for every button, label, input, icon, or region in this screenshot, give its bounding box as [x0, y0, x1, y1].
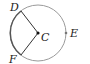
label-c: C [41, 31, 50, 44]
center-point [36, 31, 39, 34]
radius-cd [21, 11, 38, 33]
label-f: F [8, 53, 17, 64]
arc-df [10, 11, 21, 55]
circle-diagram: D C E F [0, 0, 90, 64]
label-d: D [9, 1, 19, 14]
point-e [65, 32, 68, 35]
label-e: E [69, 27, 78, 40]
radius-cf [21, 33, 38, 55]
